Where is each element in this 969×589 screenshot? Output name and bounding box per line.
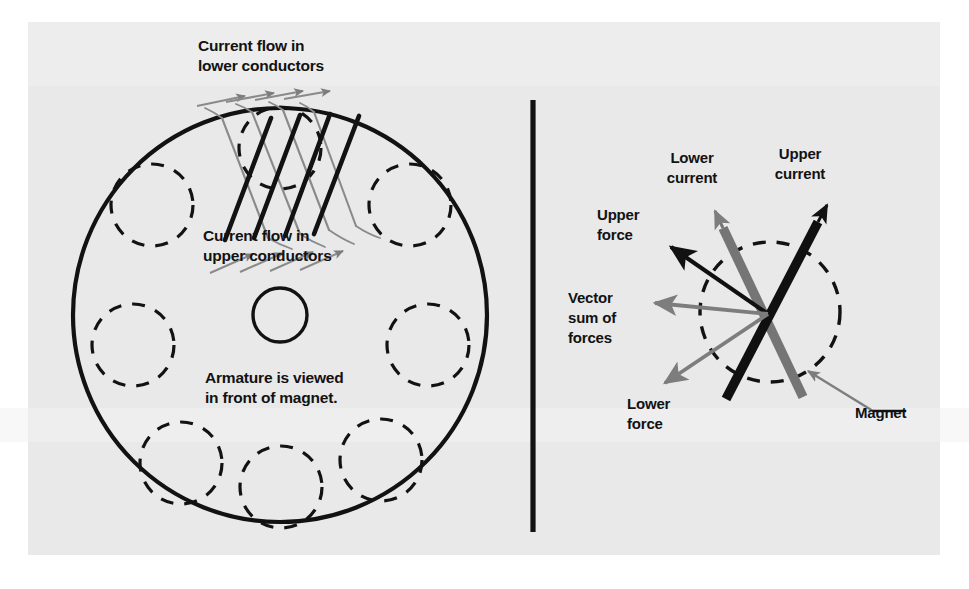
lower-force-label-line1: Lower [627, 395, 671, 412]
figure-root: Current flow in lower conductors Current… [0, 0, 969, 589]
vector-sum-label-line2: sum of [568, 309, 617, 326]
lower-current-label-line1: Lower [670, 149, 714, 166]
lower-force-label-line2: force [627, 415, 663, 432]
upper-force-label-line2: force [597, 226, 633, 243]
vector-sum-label-line3: forces [568, 329, 612, 346]
diagram-canvas: Current flow in lower conductors Current… [0, 0, 969, 589]
lower-conductors-label-line2: lower conductors [198, 57, 324, 74]
magnet-label: Magnet [855, 404, 907, 421]
viewing-note-line1: Armature is viewed [205, 369, 344, 386]
panel-band-top [28, 22, 940, 86]
upper-current-label-line1: Upper [779, 145, 822, 162]
upper-current-label-line2: current [775, 165, 825, 182]
lower-current-label-line2: current [667, 169, 717, 186]
lower-conductors-label-line1: Current flow in [198, 37, 304, 54]
panel-band-mid [0, 408, 969, 442]
viewing-note-line2: in front of magnet. [205, 389, 337, 406]
upper-conductors-label-line1: Current flow in [203, 227, 309, 244]
upper-force-label-line1: Upper [597, 206, 640, 223]
vector-sum-label-line1: Vector [568, 289, 613, 306]
upper-conductors-label-line2: upper conductors [203, 247, 332, 264]
